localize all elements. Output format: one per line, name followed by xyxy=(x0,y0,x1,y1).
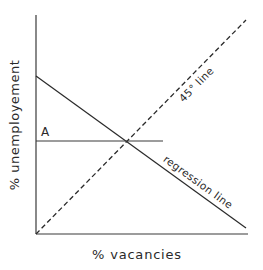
x-axis-label: % vacancies xyxy=(92,247,182,262)
point-a-label: A xyxy=(41,125,50,139)
forty-five-degree-line xyxy=(36,20,246,234)
y-axis-label: % unemployement xyxy=(7,60,22,191)
vacancy-unemployment-diagram: % unemployement % vacancies 45° line reg… xyxy=(0,0,263,270)
regression-line-label: regression line xyxy=(161,153,235,211)
regression-line xyxy=(36,76,246,228)
